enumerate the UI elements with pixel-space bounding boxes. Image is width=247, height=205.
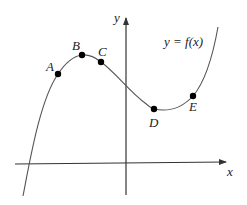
point-d — [151, 106, 157, 112]
y-axis-label: y — [112, 10, 120, 25]
point-c-label: C — [98, 44, 107, 59]
point-d-label: D — [148, 115, 159, 130]
point-c — [98, 59, 104, 65]
point-a — [55, 71, 61, 77]
point-b-label: B — [72, 38, 80, 53]
x-axis-label: x — [226, 164, 233, 179]
point-a-label: A — [45, 59, 54, 74]
function-graph: x y A B C D E y = f(x) — [0, 0, 247, 205]
point-e-label: E — [188, 99, 197, 114]
function-label: y = f(x) — [162, 34, 203, 49]
x-axis — [15, 162, 226, 164]
